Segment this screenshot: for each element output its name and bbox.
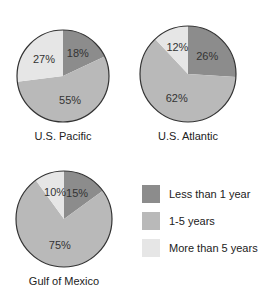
slice-label: 55% (59, 94, 81, 106)
pie-title-gulf-of-mexico: Gulf of Mexico (29, 275, 99, 287)
slice-label: 12% (166, 41, 188, 53)
pie-us-pacific: 18%55%27% (17, 30, 109, 122)
slice-label: 75% (49, 239, 71, 251)
slice-label: 15% (66, 187, 88, 199)
pie-title-us-atlantic: U.S. Atlantic (158, 130, 218, 142)
slice-label: 10% (44, 186, 66, 198)
pie-us-atlantic: 26%62%12% (140, 26, 236, 122)
pie-gulf-of-mexico: 15%75%10% (16, 171, 112, 267)
legend-item-more-than-5-years: More than 5 years (142, 239, 258, 257)
legend-item-less-than-1-year: Less than 1 year (142, 185, 250, 203)
legend-swatch (142, 239, 160, 257)
legend-item-1-5-years: 1-5 years (142, 212, 215, 230)
slice-label: 18% (67, 47, 89, 59)
slice-label: 26% (196, 50, 218, 62)
pie-title-us-pacific: U.S. Pacific (35, 130, 92, 142)
legend-swatch (142, 185, 160, 203)
slice-label: 27% (33, 53, 55, 65)
legend-swatch (142, 212, 160, 230)
slice-label: 62% (166, 92, 188, 104)
